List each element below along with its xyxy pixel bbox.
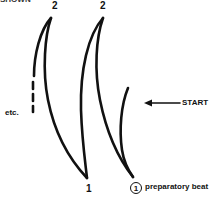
loop2-inner-stroke bbox=[96, 18, 133, 177]
beat-1-label: 1 bbox=[86, 184, 92, 194]
preparatory-beat-circled-number: 1 bbox=[130, 182, 142, 194]
start-label: START bbox=[182, 99, 208, 107]
beat-2-label-left: 2 bbox=[52, 1, 58, 11]
beat-2-label-right: 2 bbox=[100, 1, 106, 11]
start-arrow-head bbox=[144, 100, 152, 107]
preparatory-beat-label: preparatory beat bbox=[145, 183, 208, 191]
etc-label: etc. bbox=[5, 109, 19, 117]
